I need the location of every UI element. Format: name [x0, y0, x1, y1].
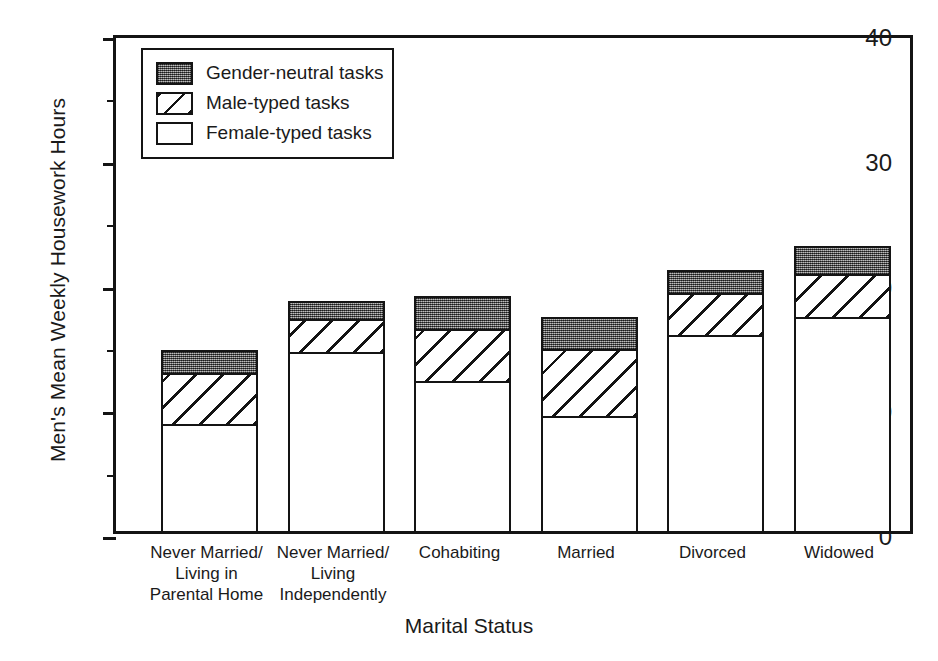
- x-tick-label: Widowed: [759, 542, 919, 563]
- stacked-bar: [414, 296, 511, 531]
- bar-segment-male-typed-tasks: [667, 293, 764, 337]
- bar-segment-female-typed-tasks: [288, 352, 385, 533]
- legend-label: Gender-neutral tasks: [206, 62, 383, 84]
- x-tick-label-line: Widowed: [759, 542, 919, 563]
- bar-segment-male-typed-tasks: [161, 373, 258, 427]
- y-tick-30: [103, 163, 116, 166]
- bar-segment-gender-neutral-tasks: [288, 301, 385, 321]
- x-tick-label-line: Living: [253, 563, 413, 584]
- y-tick-label-40: 40: [865, 24, 892, 52]
- bar-segment-gender-neutral-tasks: [414, 296, 511, 331]
- chart-figure: Men's Mean Weekly Housework Hours 010203…: [0, 0, 938, 661]
- legend-item: Female-typed tasks: [156, 118, 382, 148]
- legend-item: Male-typed tasks: [156, 88, 382, 118]
- stacked-bar: [288, 301, 385, 531]
- bar-segment-male-typed-tasks: [288, 319, 385, 354]
- bar-segment-male-typed-tasks: [541, 349, 638, 418]
- y-tick-10: [103, 412, 116, 415]
- bar-segment-male-typed-tasks: [414, 329, 511, 383]
- y-tick-20: [103, 288, 116, 291]
- bar-segment-female-typed-tasks: [541, 416, 638, 533]
- stacked-bar: [794, 246, 891, 531]
- legend-swatch-male: [156, 92, 193, 115]
- legend-item: Gender-neutral tasks: [156, 58, 382, 88]
- stacked-bar: [667, 270, 764, 531]
- bar-segment-gender-neutral-tasks: [667, 270, 764, 295]
- y-tick-minor-35: [107, 100, 116, 102]
- bar-segment-female-typed-tasks: [414, 381, 511, 533]
- bar-segment-gender-neutral-tasks: [794, 246, 891, 276]
- bar-segment-female-typed-tasks: [667, 335, 764, 533]
- legend-swatch-neutral: [156, 62, 193, 85]
- bar-segment-female-typed-tasks: [161, 424, 258, 533]
- y-tick-minor-5: [107, 475, 116, 477]
- bar-segment-male-typed-tasks: [794, 274, 891, 319]
- x-tick-label-line: Independently: [253, 584, 413, 605]
- y-tick-0: [103, 537, 116, 540]
- stacked-bar: [161, 350, 258, 531]
- y-tick-minor-15: [107, 350, 116, 352]
- bar-segment-female-typed-tasks: [794, 317, 891, 533]
- legend-label: Female-typed tasks: [206, 122, 372, 144]
- y-tick-minor-25: [107, 225, 116, 227]
- bar-segment-gender-neutral-tasks: [541, 317, 638, 351]
- y-tick-40: [103, 38, 116, 41]
- stacked-bar: [541, 317, 638, 531]
- x-axis-title: Marital Status: [0, 614, 938, 638]
- y-axis-title: Men's Mean Weekly Housework Hours: [38, 0, 78, 560]
- y-tick-label-30: 30: [865, 149, 892, 177]
- chart-legend: Gender-neutral tasksMale-typed tasksFema…: [141, 48, 394, 159]
- bar-segment-gender-neutral-tasks: [161, 350, 258, 375]
- legend-label: Male-typed tasks: [206, 92, 350, 114]
- legend-swatch-female: [156, 122, 193, 145]
